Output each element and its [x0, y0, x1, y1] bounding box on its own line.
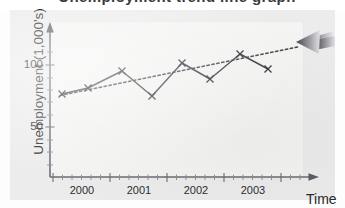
y-axis-label: Unemployment (1,000's): [31, 2, 46, 162]
x-tick-label-2002: 2002: [173, 184, 219, 196]
x-axis-label: Time: [306, 191, 337, 207]
annotation-arrowhead: [296, 30, 320, 54]
y-tick-label-100: 100: [9, 58, 43, 70]
annotation-layer: [10, 10, 335, 200]
page-title-strip: Unemployment trend line graph: [0, 0, 345, 10]
x-tick-label-2003: 2003: [230, 184, 276, 196]
page-title: Unemployment trend line graph: [52, 0, 302, 5]
x-tick-label-2000: 2000: [59, 184, 105, 196]
x-tick-label-2001: 2001: [116, 184, 162, 196]
chart-figure: Unemployment (1,000's) 100 50 2000 2001 …: [10, 10, 335, 200]
y-tick-label-50: 50: [9, 120, 43, 132]
screenshot-root: Unemployment trend line graph: [0, 0, 345, 208]
